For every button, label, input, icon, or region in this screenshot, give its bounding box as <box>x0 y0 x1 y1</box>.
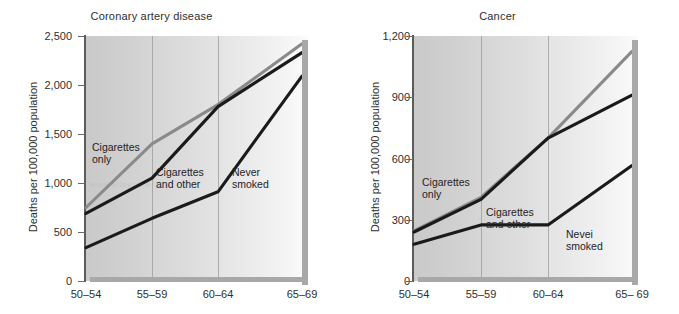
annotation-line-1: Cigarettes <box>422 176 470 188</box>
y-tick-label: 500 <box>20 226 72 238</box>
annotation-line-2: only <box>92 153 111 165</box>
figure-canvas: Coronary artery disease Deaths per 100,0… <box>0 0 679 314</box>
plot-shadow-right <box>302 40 308 285</box>
y-axis-tick <box>78 134 85 135</box>
y-axis-tick <box>78 85 85 86</box>
y-tick-label: 1,500 <box>20 128 72 140</box>
annotation-cigarettes-and-other: Cigarettesand other <box>486 206 534 230</box>
annotation-never-smoked: Neveismoked <box>566 228 603 252</box>
y-axis-tick <box>78 36 85 37</box>
annotation-cigarettes-only: Cigarettesonly <box>92 141 140 165</box>
plot-area-cancer: Cigarettesonly Cigarettesand other Nevei… <box>414 36 638 281</box>
y-axis-tick <box>406 36 413 37</box>
chart-title-coronary: Coronary artery disease <box>0 10 321 22</box>
y-tick-label: 1,200 <box>358 30 410 42</box>
plot-shadow-right <box>632 40 638 285</box>
chart-panel-coronary: Coronary artery disease Deaths per 100,0… <box>0 0 339 314</box>
y-tick-label: 600 <box>358 153 410 165</box>
series-line-cigarettes-only <box>414 51 632 231</box>
annotation-never-smoked: Neversmoked <box>232 166 269 190</box>
series-lines-cancer <box>414 36 638 281</box>
y-tick-label: 0 <box>20 275 72 287</box>
annotation-cigarettes-only: Cigarettesonly <box>422 176 470 200</box>
annotation-line-1: Nevei <box>566 228 593 240</box>
annotation-line-1: Cigarettes <box>92 141 140 153</box>
y-tick-label: 2,500 <box>20 30 72 42</box>
annotation-line-1: Never <box>232 166 260 178</box>
y-axis-tick <box>78 281 85 282</box>
annotation-line-2: and other <box>486 218 530 230</box>
plot-area-coronary: www.wiley.com Cigarettesonly Cigarettesa… <box>86 36 308 281</box>
y-axis-tick <box>406 281 413 282</box>
x-tick-label: 65–69 <box>272 288 332 300</box>
annotation-line-1: Cigarettes <box>156 166 204 178</box>
y-tick-label: 1,000 <box>20 177 72 189</box>
x-tick-label: 60–64 <box>188 288 248 300</box>
chart-title-cancer: Cancer <box>328 10 667 22</box>
y-axis-tick <box>406 97 413 98</box>
x-tick-label: 50–54 <box>384 288 444 300</box>
y-tick-label: 0 <box>358 275 410 287</box>
annotation-line-2: smoked <box>232 178 269 190</box>
annotation-line-2: and other <box>156 178 200 190</box>
y-axis-tick <box>78 232 85 233</box>
chart-panel-cancer: Cancer Deaths per 100,000 population 1,2… <box>340 0 679 314</box>
y-tick-label: 900 <box>358 91 410 103</box>
y-axis-tick <box>406 220 413 221</box>
x-tick-label: 55–59 <box>122 288 182 300</box>
x-tick-label: 50–54 <box>56 288 116 300</box>
x-tick-label: 65– 69 <box>602 288 662 300</box>
y-tick-label: 2,000 <box>20 79 72 91</box>
y-axis-tick <box>406 159 413 160</box>
x-tick-label: 60–64 <box>518 288 578 300</box>
annotation-line-2: only <box>422 188 441 200</box>
y-axis-label-coronary: Deaths per 100,000 population <box>27 82 39 232</box>
y-axis-tick <box>78 183 85 184</box>
y-tick-label: 300 <box>358 214 410 226</box>
annotation-line-2: smoked <box>566 240 603 252</box>
annotation-cigarettes-and-other: Cigarettesand other <box>156 166 204 190</box>
plot-shadow-bottom <box>418 277 638 282</box>
plot-shadow-bottom <box>90 277 308 282</box>
annotation-line-1: Cigarettes <box>486 206 534 218</box>
x-tick-label: 55–59 <box>451 288 511 300</box>
